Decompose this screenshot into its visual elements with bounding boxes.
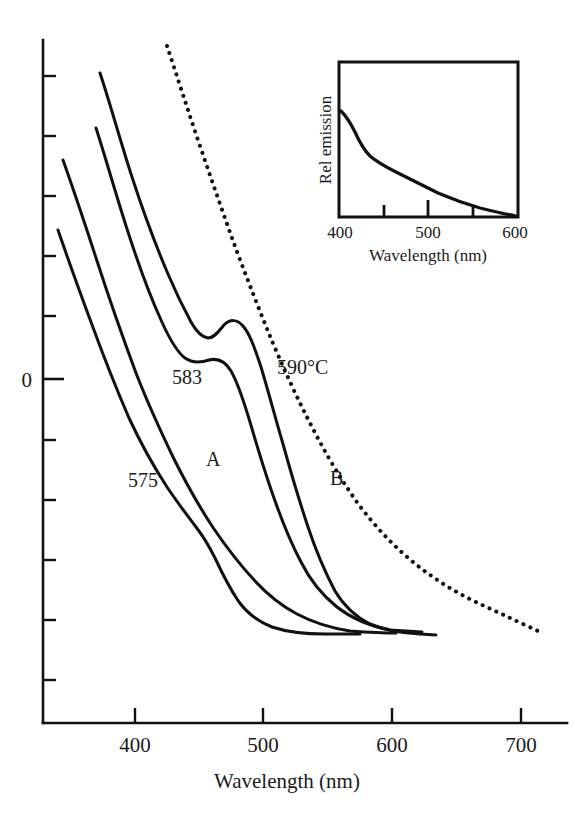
- x-tick-label-400: 400: [119, 733, 151, 757]
- label-590C: 590°C: [277, 356, 328, 378]
- inset-x-tick-label-600: 600: [502, 223, 528, 242]
- inset-x-tick-label-400: 400: [327, 223, 353, 242]
- y-axis-zero-label: 0: [22, 368, 33, 392]
- x-axis-ticks: [135, 708, 521, 723]
- x-tick-label-600: 600: [376, 733, 408, 757]
- inset-y-axis-title: Rel emission: [316, 95, 335, 184]
- x-tick-label-500: 500: [247, 733, 279, 757]
- label-583: 583: [172, 366, 202, 388]
- y-axis-ticks: [43, 76, 64, 680]
- label-B: B: [330, 467, 343, 489]
- inset-x-tick-labels: 400 500 600: [327, 223, 528, 242]
- x-axis-tick-labels: 400 500 600 700: [119, 733, 537, 757]
- inset-x-tick-label-500: 500: [415, 223, 441, 242]
- inset-frame: [339, 62, 518, 217]
- inset-plot: 400 500 600 Wavelength (nm) Rel emission: [316, 62, 528, 265]
- x-tick-label-700: 700: [505, 733, 537, 757]
- figure-canvas: 0 400 500 600 700 Wavelength (nm): [0, 0, 575, 816]
- label-A: A: [206, 448, 221, 470]
- spectroscopy-figure: 0 400 500 600 700 Wavelength (nm): [0, 0, 575, 816]
- label-575: 575: [128, 469, 158, 491]
- x-axis-title: Wavelength (nm): [214, 769, 360, 793]
- inset-x-axis-title: Wavelength (nm): [369, 246, 487, 265]
